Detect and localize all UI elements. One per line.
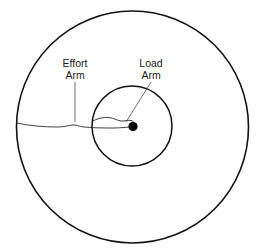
load-arm-label-line2: Arm [141,69,161,81]
load-arm-leader-line [126,82,151,122]
effort-arm-label-line1: Effort [63,57,88,69]
effort-arm-curve [17,123,130,128]
pivot-dot [128,122,137,131]
effort-arm-label-line2: Arm [65,69,85,81]
lever-arm-diagram: Effort Arm Load Arm [0,0,264,251]
diagram-canvas: Effort Arm Load Arm [0,0,264,251]
load-arm-label-line1: Load [139,57,163,69]
